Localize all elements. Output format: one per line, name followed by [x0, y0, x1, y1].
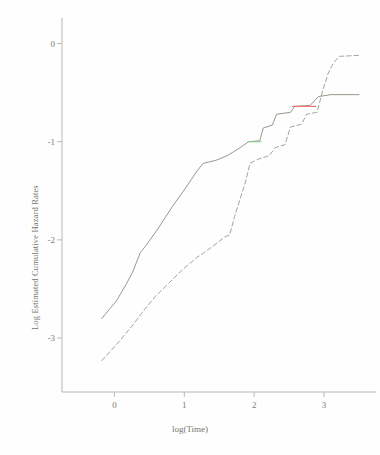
series-line-group-2-dashed: [102, 55, 359, 360]
chart-figure: Log Estimated Cumulative Hazard Rates lo…: [0, 0, 380, 455]
series-line-group-1-solid: [102, 95, 359, 319]
plot-area: [0, 0, 380, 455]
